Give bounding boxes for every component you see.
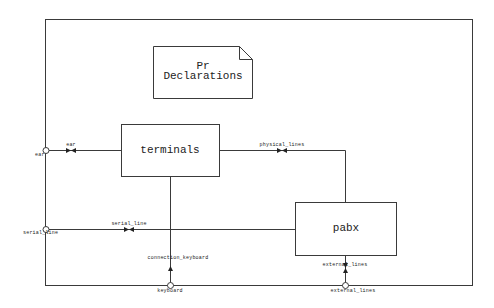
channel-physical-lines-line[interactable] <box>219 151 346 203</box>
channel-ear-arrows-icon <box>66 148 76 153</box>
declarations-title-line2: Declarations <box>163 70 242 82</box>
channel-connection-keyboard-label: connection_keyboard <box>148 255 209 261</box>
gate-ear-label: ear <box>35 152 45 158</box>
channel-serial-line-label: serial_line <box>111 221 146 227</box>
system-frame <box>46 20 473 286</box>
gate-external-lines-label: external_lines <box>331 288 376 294</box>
block-pabx-label: pabx <box>333 222 359 234</box>
channel-keyboard-arrow-icon <box>168 266 173 271</box>
channel-physical-lines-arrows-icon <box>277 148 287 153</box>
gate-keyboard-label: keyboard <box>157 288 183 294</box>
channel-external-lines-label: external_lines <box>323 262 368 268</box>
channel-ear-label: ear <box>66 142 76 148</box>
diagram-canvas <box>0 0 494 308</box>
channel-serial-line-arrows-icon <box>124 227 134 232</box>
channel-physical-lines-label: physical_lines <box>260 142 305 148</box>
gate-serial-line-label: serial_line <box>23 230 58 236</box>
block-terminals-label: terminals <box>140 144 199 156</box>
